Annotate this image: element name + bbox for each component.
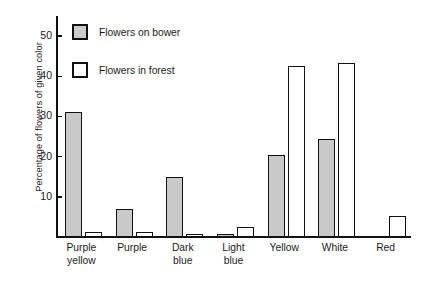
x-category-label: White [310,242,361,255]
bar-bower [65,112,82,237]
legend-item-bower: Flowers on bower [72,24,180,40]
x-category-label-line: Dark [157,242,208,255]
legend-label-bower: Flowers on bower [99,27,180,38]
bar-forest [136,232,153,237]
bar-forest [338,63,355,237]
y-tick-label-wrap-10: 10 [28,191,52,203]
x-category-label: Purple [107,242,158,255]
bar-group [65,16,102,237]
bar-bower [268,155,285,237]
plot-area [56,16,411,237]
x-category-label: Lightblue [208,242,259,267]
legend-item-forest: Flowers in forest [72,62,175,78]
y-tick-label-wrap-30: 30 [28,110,52,122]
bar-chart-figure: Percentage of flowers of given color 102… [0,0,427,283]
y-tick-label-50: 50 [30,30,52,41]
x-category-label: Yellow [259,242,310,255]
bar-group [217,16,254,237]
legend-label-forest: Flowers in forest [99,65,175,76]
bar-group [369,16,406,237]
bar-forest [237,227,254,237]
x-category-label-line: blue [208,255,259,268]
bar-group [318,16,355,237]
y-tick-label-wrap-50: 50 [28,30,52,42]
legend-swatch-forest [72,62,88,78]
x-category-label-line: Yellow [259,242,310,255]
x-category-label-line: Light [208,242,259,255]
x-category-label-line: yellow [56,255,107,268]
x-category-label-line: Purple [107,242,158,255]
bar-forest [186,234,203,237]
legend-swatch-bower [72,24,88,40]
x-category-label-line: blue [157,255,208,268]
y-tick-label-40: 40 [30,70,52,81]
x-category-label-line: Red [360,242,411,255]
bar-bower [217,234,234,237]
y-tick-label-30: 30 [30,110,52,121]
y-tick-label-wrap-20: 20 [28,151,52,163]
bar-bower [166,177,183,237]
x-category-label: Purpleyellow [56,242,107,267]
y-tick-label-wrap-40: 40 [28,70,52,82]
bar-bower [318,139,335,237]
x-category-label-line: Purple [56,242,107,255]
bar-group [116,16,153,237]
x-category-label: Red [360,242,411,255]
x-category-label: Darkblue [157,242,208,267]
bar-bower [116,209,133,237]
bar-forest [389,216,406,237]
bar-group [166,16,203,237]
bar-forest [288,66,305,237]
bar-forest [85,232,102,237]
y-tick-label-20: 20 [30,151,52,162]
x-category-label-line: White [310,242,361,255]
bar-group [268,16,305,237]
y-tick-label-10: 10 [30,191,52,202]
